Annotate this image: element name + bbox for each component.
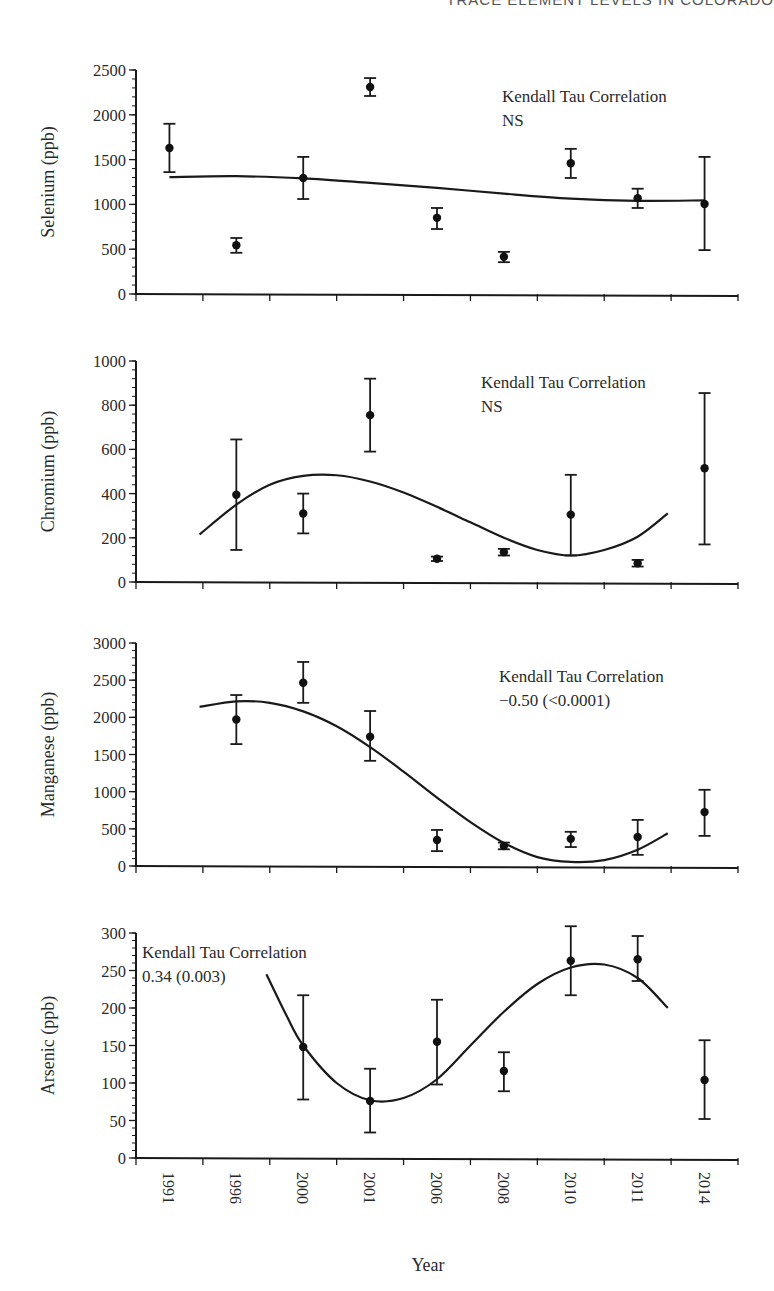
x-tick-label: 2000 [294, 1172, 311, 1204]
data-point-2008 [498, 252, 510, 262]
data-marker [366, 411, 374, 419]
x-axis-line [135, 582, 738, 584]
kendall-tau-annotation-title: Kendall Tau Correlation [481, 373, 646, 392]
y-tick-label: 250 [101, 962, 126, 981]
y-tick-label: 1000 [93, 195, 126, 214]
panel-selenium: 05001000150020002500Selenium (ppb)Kendal… [38, 61, 738, 304]
data-point-2014 [699, 157, 711, 250]
y-tick-label: 2000 [93, 106, 126, 125]
x-tick-label: 2006 [428, 1172, 445, 1204]
y-axis-title: Chromium (ppb) [38, 411, 59, 533]
data-point-1991 [163, 124, 175, 172]
y-tick-label: 300 [101, 924, 126, 943]
data-marker [633, 559, 641, 567]
data-marker [433, 836, 441, 844]
x-tick-label: 1991 [160, 1172, 177, 1204]
y-tick-label: 0 [118, 1149, 126, 1168]
y-tick-label: 1000 [93, 352, 126, 371]
data-marker [299, 509, 307, 517]
data-point-2006 [431, 208, 443, 229]
y-tick-label: 200 [101, 999, 126, 1018]
y-tick-label: 1000 [93, 783, 126, 802]
data-marker [165, 144, 173, 152]
data-marker [700, 200, 708, 208]
y-tick-label: 600 [101, 440, 126, 459]
trend-curve [266, 964, 667, 1102]
data-marker [299, 679, 307, 687]
x-axis-title: Year [411, 1255, 444, 1275]
y-axis-title: Manganese (ppb) [38, 692, 59, 817]
kendall-tau-annotation-value: NS [502, 111, 524, 130]
y-tick-label: 500 [101, 820, 126, 839]
x-tick-label: 2011 [629, 1172, 646, 1203]
panel-chromium: 02004006008001000Chromium (ppb)Kendall T… [38, 352, 738, 592]
data-point-2010 [565, 832, 577, 847]
data-marker [567, 957, 575, 965]
data-point-2000 [297, 494, 309, 534]
y-tick-label: 200 [101, 529, 126, 548]
kendall-tau-annotation-title: Kendall Tau Correlation [499, 667, 664, 686]
y-tick-label: 0 [118, 857, 126, 876]
y-tick-label: 50 [110, 1112, 127, 1131]
data-marker [366, 83, 374, 91]
data-point-2014 [699, 790, 711, 836]
data-point-2011 [632, 189, 644, 208]
trace-element-figure: 05001000150020002500Selenium (ppb)Kendal… [0, 0, 774, 1291]
x-axis-labels: 199119962000200120062008201020112014 [160, 1172, 712, 1204]
data-marker [633, 194, 641, 202]
kendall-tau-annotation-value: NS [481, 397, 503, 416]
data-marker [433, 555, 441, 563]
data-marker [232, 241, 240, 249]
y-axis-title: Selenium (ppb) [38, 126, 59, 237]
y-tick-label: 400 [101, 485, 126, 504]
data-point-2000 [297, 995, 309, 1099]
data-marker [299, 174, 307, 182]
data-marker [366, 1097, 374, 1105]
data-marker [366, 732, 374, 740]
x-tick-label: 2010 [562, 1172, 579, 1204]
x-axis-line [135, 1158, 738, 1160]
y-tick-label: 1500 [93, 151, 126, 170]
data-point-2010 [565, 926, 577, 995]
x-tick-label: 1996 [227, 1172, 244, 1204]
y-tick-label: 800 [101, 396, 126, 415]
data-point-2001 [364, 711, 376, 761]
data-marker [232, 715, 240, 723]
data-point-2014 [699, 393, 711, 544]
kendall-tau-annotation-title: Kendall Tau Correlation [502, 87, 667, 106]
data-marker [700, 1076, 708, 1084]
panel-manganese: 050010001500200025003000Manganese (ppb)K… [38, 634, 738, 876]
data-marker [567, 510, 575, 518]
data-marker [633, 833, 641, 841]
data-marker [500, 253, 508, 261]
kendall-tau-annotation-title: Kendall Tau Correlation [142, 943, 307, 962]
data-point-2006 [431, 830, 443, 851]
data-marker [567, 835, 575, 843]
kendall-tau-annotation-value: 0.34 (0.003) [142, 967, 226, 986]
data-marker [500, 842, 508, 850]
y-tick-label: 100 [101, 1074, 126, 1093]
x-tick-label: 2014 [696, 1172, 713, 1204]
x-axis-line [135, 294, 738, 296]
y-axis-title: Arsenic (ppb) [38, 996, 59, 1095]
data-point-2000 [297, 662, 309, 703]
y-tick-label: 0 [118, 285, 126, 304]
y-tick-label: 150 [101, 1037, 126, 1056]
data-marker [700, 808, 708, 816]
panel-arsenic: 050100150200250300Arsenic (ppb)Kendall T… [38, 924, 738, 1168]
data-marker [433, 1038, 441, 1046]
data-point-2011 [632, 820, 644, 855]
kendall-tau-annotation-value: −0.50 (<0.0001) [499, 691, 610, 710]
data-point-2006 [431, 555, 443, 563]
data-point-2010 [565, 149, 577, 178]
data-point-2010 [565, 475, 577, 556]
data-marker [700, 464, 708, 472]
data-point-2008 [498, 1052, 510, 1091]
trend-curve [200, 475, 668, 556]
data-marker [500, 1067, 508, 1075]
data-marker [299, 1043, 307, 1051]
x-axis-line [135, 866, 738, 868]
data-point-2008 [498, 548, 510, 556]
data-point-2001 [364, 78, 376, 96]
y-tick-label: 2500 [93, 61, 126, 80]
